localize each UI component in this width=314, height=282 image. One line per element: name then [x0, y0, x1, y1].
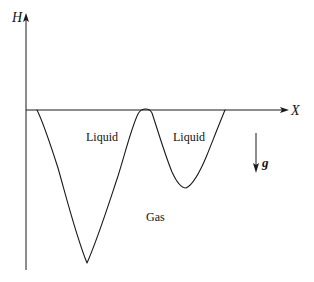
liquid-region-left-label: Liquid — [86, 131, 118, 143]
gas-region-label: Gas — [146, 211, 165, 223]
liquid-region-right-label: Liquid — [173, 131, 205, 143]
horizontal-axis-label: X — [291, 104, 300, 118]
physics-diagram-figure: H X Liquid Liquid Gas g — [0, 0, 314, 282]
gravity-vector-label: g — [262, 156, 269, 169]
vertical-axis-label: H — [12, 11, 22, 25]
diagram-canvas — [0, 0, 314, 282]
